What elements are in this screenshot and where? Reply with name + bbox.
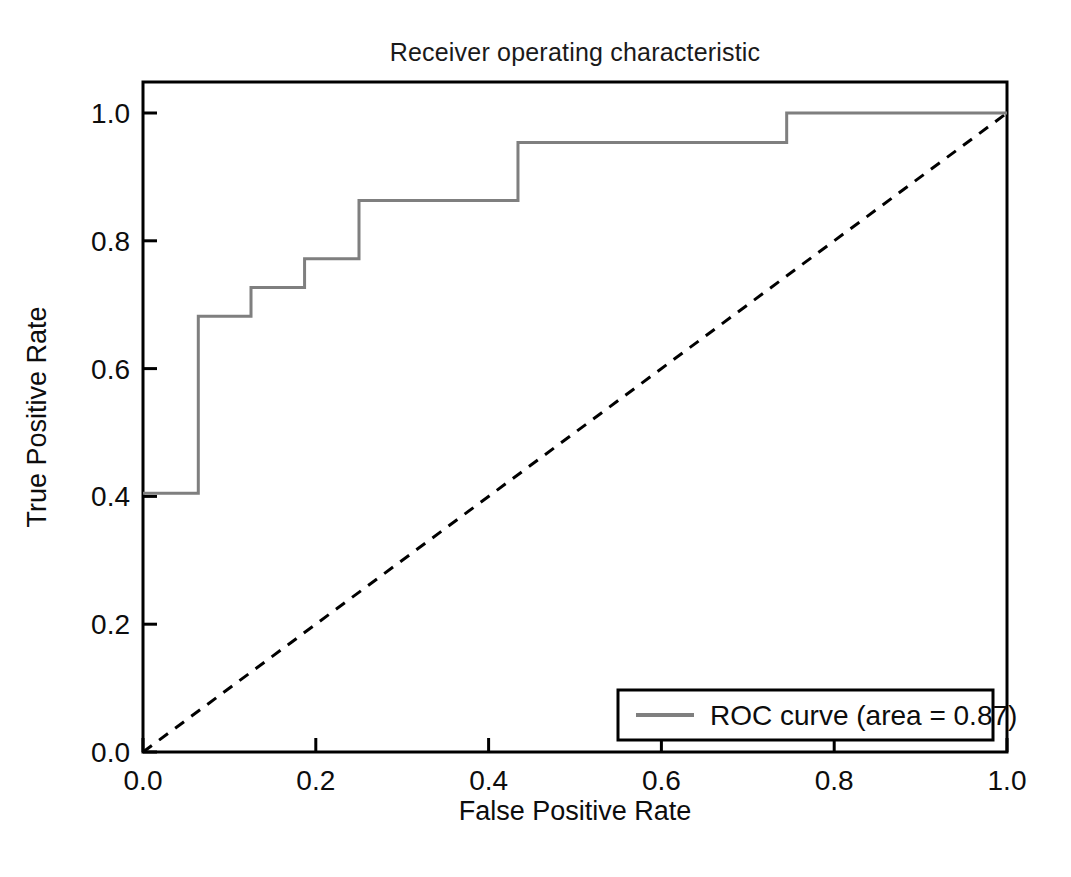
x-tick-label: 0.6 <box>642 765 681 796</box>
y-axis-title: True Positive Rate <box>22 306 52 527</box>
roc-curve-line <box>143 113 1007 493</box>
roc-chart-figure: Receiver operating characteristic 0.00.2… <box>0 0 1071 877</box>
plot-frame <box>143 82 1007 752</box>
y-tick-label: 0.2 <box>91 609 130 640</box>
y-axis-ticks: 0.00.20.40.60.81.0 <box>91 98 157 768</box>
x-tick-label: 0.0 <box>124 765 163 796</box>
y-tick-label: 1.0 <box>91 98 130 129</box>
y-tick-label: 0.0 <box>91 737 130 768</box>
y-tick-label: 0.4 <box>91 481 130 512</box>
y-tick-label: 0.6 <box>91 354 130 385</box>
x-tick-label: 0.8 <box>815 765 854 796</box>
x-tick-label: 0.4 <box>469 765 508 796</box>
y-tick-label: 0.8 <box>91 226 130 257</box>
chance-diagonal-line <box>143 113 1007 752</box>
legend[interactable]: ROC curve (area = 0.87) <box>618 690 1017 740</box>
x-axis-ticks: 0.00.20.40.60.81.0 <box>124 738 1027 796</box>
x-tick-label: 0.2 <box>296 765 335 796</box>
plot-area: 0.00.20.40.60.81.0 0.00.20.40.60.81.0 Fa… <box>0 0 1071 877</box>
legend-entry-label: ROC curve (area = 0.87) <box>710 700 1017 731</box>
x-axis-title: False Positive Rate <box>459 796 692 826</box>
x-tick-label: 1.0 <box>988 765 1027 796</box>
